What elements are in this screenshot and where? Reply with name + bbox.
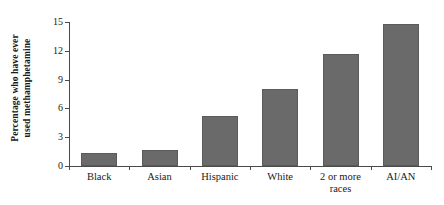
x-axis-tick — [431, 166, 432, 170]
x-axis-label-line: Black — [87, 171, 112, 183]
x-axis-tick — [190, 166, 191, 170]
x-axis-label: Asian — [147, 171, 172, 183]
y-axis-tick — [65, 22, 69, 23]
x-axis-label-line: White — [267, 171, 293, 183]
y-axis-tick-label: 9 — [58, 75, 63, 85]
y-axis-tick-label: 12 — [53, 46, 63, 56]
x-axis-tick — [371, 166, 372, 170]
x-axis-label-line: Asian — [147, 171, 172, 183]
y-axis-tick-label: 15 — [53, 17, 63, 27]
plot-area: 03691215 BlackAsianHispanicWhite2 or mor… — [69, 22, 431, 166]
x-axis-label-line: races — [320, 183, 361, 195]
x-axis-label: AI/AN — [386, 171, 415, 183]
x-axis-tick — [69, 166, 70, 170]
y-axis-title: Percentage who have ever used methamphet… — [4, 8, 38, 168]
y-axis-tick — [65, 137, 69, 138]
x-axis-label: Hispanic — [201, 171, 238, 183]
bar — [81, 153, 117, 166]
y-axis-tick — [65, 108, 69, 109]
bar — [142, 150, 178, 166]
bar-chart-figure: Percentage who have ever used methamphet… — [0, 0, 444, 205]
x-axis-label: 2 or moreraces — [320, 171, 361, 195]
bar — [262, 89, 298, 166]
x-axis-label: Black — [87, 171, 112, 183]
y-axis-tick — [65, 80, 69, 81]
bar — [383, 24, 419, 166]
y-axis-title-line-1: Percentage who have ever — [9, 34, 21, 141]
y-axis-line — [69, 22, 70, 166]
bar — [202, 116, 238, 166]
x-axis-label: White — [267, 171, 293, 183]
x-axis-label-line: 2 or more — [320, 171, 361, 183]
x-axis-tick — [250, 166, 251, 170]
bar — [323, 54, 359, 166]
y-axis-tick-label: 3 — [58, 132, 63, 142]
x-axis-label-line: AI/AN — [386, 171, 415, 183]
y-axis-tick-label: 0 — [58, 161, 63, 171]
x-axis-label-line: Hispanic — [201, 171, 238, 183]
y-axis-title-line-2: used methamphetamine — [21, 34, 33, 141]
y-axis-tick — [65, 51, 69, 52]
x-axis-tick — [310, 166, 311, 170]
y-axis-tick-label: 6 — [58, 103, 63, 113]
x-axis-tick — [129, 166, 130, 170]
